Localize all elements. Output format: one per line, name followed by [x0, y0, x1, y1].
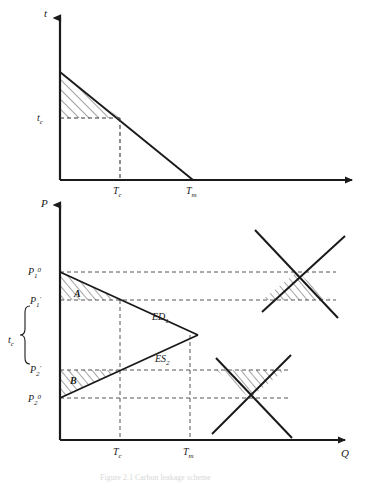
top-tc-label: tc — [37, 112, 44, 126]
bottom-Tc-tick-label: Tc — [113, 446, 123, 460]
figure-container: t tc Tc Tm P10 P1′ P2′ P20 — [0, 0, 365, 482]
bottom-x-axis-label: Q — [341, 447, 349, 459]
P2-0-tick-label: P20 — [27, 393, 42, 407]
inset-upper-right — [255, 230, 345, 318]
ES2-curve — [60, 335, 198, 398]
economics-diagram: t tc Tc Tm P10 P1′ P2′ P20 — [0, 0, 365, 482]
inset-upper-upward-line — [262, 236, 345, 312]
tc-bracket — [20, 306, 30, 364]
P2-prime-tick-label: P2′ — [29, 364, 42, 378]
top-Tm-tick-label: Tm — [186, 185, 197, 199]
P1-prime-tick-label: P1′ — [29, 295, 42, 309]
top-y-axis-label: t — [44, 7, 48, 19]
region-A-label: A — [73, 288, 81, 299]
region-B-label: B — [69, 375, 77, 386]
top-tax-schedule-line — [60, 72, 193, 180]
bracket-tc-label: tc — [8, 334, 15, 348]
ES2-label: ES2 — [154, 353, 170, 367]
top-Tc-tick-label: Tc — [113, 185, 123, 199]
ED1-curve — [60, 272, 198, 335]
bottom-Tm-tick-label: Tm — [183, 446, 194, 460]
inset-upper-downward-line — [255, 230, 338, 318]
bottom-y-axis-label: P — [40, 197, 48, 209]
P1-0-tick-label: P10 — [27, 266, 42, 280]
inset-lower-right — [212, 355, 292, 438]
top-panel: t tc Tc Tm — [37, 7, 352, 199]
figure-caption: Figure 2.1 Carbon leakage scheme — [100, 473, 211, 482]
ED1-label: ED1 — [151, 311, 169, 325]
bottom-panel: P10 P1′ P2′ P20 tc A B ED1 ES2 P Q Tc Tm — [8, 197, 349, 460]
